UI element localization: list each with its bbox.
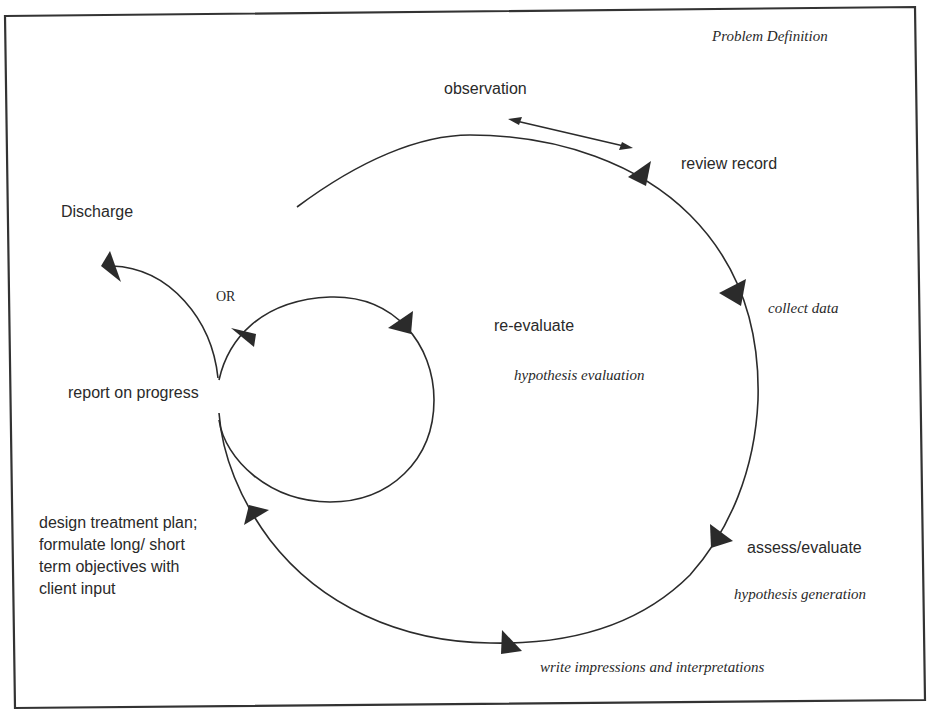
node-report-on-progress: report on progress [68,384,199,402]
diagram-canvas: Problem Definition observation review re… [0,0,928,712]
node-discharge: Discharge [61,203,133,221]
arrowhead-collect-data-icon [719,279,746,306]
node-review-record: review record [681,155,777,173]
node-collect-data: collect data [768,300,838,317]
node-assess-evaluate: assess/evaluate [747,539,862,557]
arrowhead-assess-icon [710,524,733,548]
or-label: OR [216,289,235,305]
observation-link-line [512,120,628,147]
discharge-arc [112,266,218,378]
node-re-evaluate: re-evaluate [494,317,574,335]
arrowhead-icon [508,117,522,125]
phase-label-hypothesis-generation: hypothesis generation [734,586,866,603]
node-observation: observation [444,80,527,98]
cycle-diagram [0,0,928,712]
arrowhead-icon [619,142,633,150]
phase-label-hypothesis-evaluation: hypothesis evaluation [514,367,644,384]
phase-label-problem-definition: Problem Definition [712,28,828,45]
arrowhead-design-treatment-icon [244,505,269,525]
node-design-treatment: design treatment plan; formulate long/ s… [39,512,219,600]
main-cycle-arc [219,135,758,643]
node-write-impressions: write impressions and interpretations [540,659,764,676]
